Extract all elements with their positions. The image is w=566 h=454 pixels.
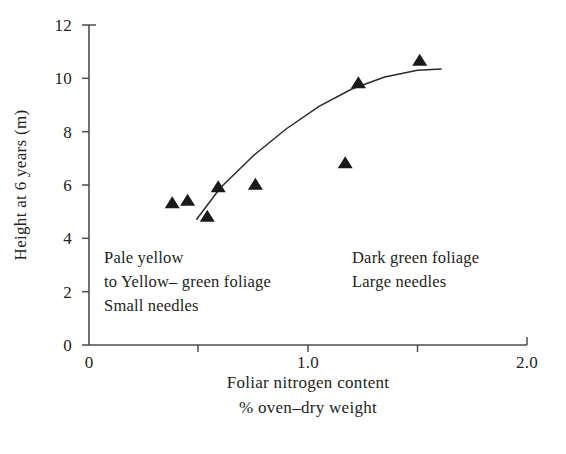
x-tick-label-0: 0 [66,354,112,371]
trend-curve [196,69,441,220]
data-point [412,54,427,66]
y-tick-label-10: 10 [32,70,72,87]
data-point [165,196,180,208]
chart-figure: 0 2 4 6 8 10 12 0 1.0 2.0 Height at 6 ye… [0,0,566,454]
x-axis-title-line1: Foliar nitrogen content [89,370,527,395]
annotation-right-line1: Dark green foliage [352,246,479,270]
y-tick-label-4: 4 [32,230,72,247]
y-axis-title: Height at 6 years (m) [8,25,34,345]
annotation-right-line2: Large needles [352,270,479,294]
annotation-left-line1: Pale yellow [104,246,271,270]
data-points [165,54,428,222]
y-tick-label-12: 12 [32,17,72,34]
annotation-left-line3: Small needles [104,294,271,318]
x-axis-title: Foliar nitrogen content % oven–dry weigh… [89,370,527,420]
data-point [351,76,366,88]
annotation-right-foliage: Dark green foliage Large needles [352,246,479,294]
y-tick-label-2: 2 [32,284,72,301]
x-axis-title-line2: % oven–dry weight [89,395,527,420]
y-tick-label-0: 0 [32,337,72,354]
annotation-left-foliage: Pale yellow to Yellow– green foliage Sma… [104,246,271,318]
data-point [338,156,353,168]
y-tick-label-8: 8 [32,124,72,141]
y-tick-label-6: 6 [32,177,72,194]
data-point [248,178,263,190]
y-axis-ticks [82,25,89,345]
annotation-left-line2: to Yellow– green foliage [104,270,271,294]
data-point [180,194,195,206]
x-tick-label-1: 1.0 [285,354,331,371]
x-tick-label-2: 2.0 [504,354,550,371]
data-point [211,180,226,192]
